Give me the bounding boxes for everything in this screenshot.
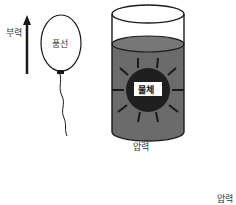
corner-pressure-label: 압력 [217,192,233,205]
balloon-icon [41,15,81,136]
buoyancy-arrow-icon [23,15,31,74]
balloon-label: 풍선 [52,37,68,50]
pressure-label: 압력 [133,140,149,153]
diagram-canvas [0,0,236,205]
buoyancy-label: 부력 [6,26,22,39]
object-label: 물체 [138,83,154,96]
